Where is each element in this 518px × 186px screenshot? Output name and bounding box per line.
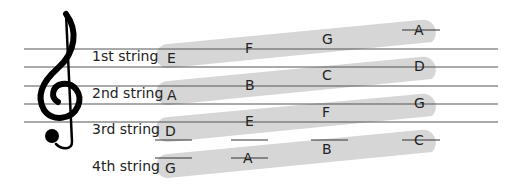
string-label-2: 2nd string xyxy=(92,85,163,101)
note: A xyxy=(414,22,424,38)
note: F xyxy=(322,104,330,120)
treble-clef-icon xyxy=(40,14,79,148)
note: E xyxy=(167,50,176,66)
note: A xyxy=(243,150,253,166)
note: C xyxy=(414,132,424,148)
staff-diagram xyxy=(0,0,518,186)
note: D xyxy=(165,123,176,139)
string-label-4: 4th string xyxy=(92,158,160,174)
note: G xyxy=(165,160,176,176)
note: G xyxy=(322,31,333,47)
note: C xyxy=(322,67,332,83)
note: F xyxy=(245,40,253,56)
note: G xyxy=(414,95,425,111)
note: D xyxy=(414,58,425,74)
note: B xyxy=(322,141,332,157)
note: E xyxy=(245,113,254,129)
note: B xyxy=(245,77,255,93)
string-label-1: 1st string xyxy=(92,48,158,64)
note: A xyxy=(167,87,177,103)
string-label-3: 3rd string xyxy=(92,121,160,137)
string-bands xyxy=(156,20,436,178)
